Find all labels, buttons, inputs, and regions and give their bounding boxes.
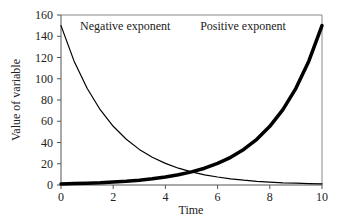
y-axis-label: Value of variable [9, 59, 23, 141]
exponent-chart: 020406080100120140160 0246810 Negative e… [0, 0, 343, 223]
x-tick-label: 4 [162, 190, 168, 204]
x-tick-label: 10 [316, 190, 328, 204]
x-tick-label: 6 [215, 190, 221, 204]
y-tick-label: 140 [35, 29, 53, 43]
y-tick-label: 120 [35, 51, 53, 65]
plot-frame [61, 15, 322, 185]
x-tick-label: 8 [267, 190, 273, 204]
series-line [61, 26, 322, 184]
x-tick-label: 0 [58, 190, 64, 204]
annotation-label: Negative exponent [80, 19, 171, 33]
y-tick-label: 80 [41, 93, 53, 107]
x-ticks: 0246810 [58, 185, 328, 204]
y-tick-label: 0 [47, 178, 53, 192]
y-tick-label: 160 [35, 8, 53, 22]
x-axis-label: Time [179, 203, 204, 217]
annotation-label: Positive exponent [200, 19, 286, 33]
y-tick-label: 60 [41, 114, 53, 128]
annotations: Negative exponentPositive exponent [80, 19, 286, 33]
y-tick-label: 100 [35, 72, 53, 86]
series-line [61, 26, 322, 184]
y-ticks: 020406080100120140160 [35, 8, 61, 192]
x-tick-label: 2 [110, 190, 116, 204]
y-tick-label: 40 [41, 136, 53, 150]
y-tick-label: 20 [41, 157, 53, 171]
series-lines [61, 26, 322, 184]
